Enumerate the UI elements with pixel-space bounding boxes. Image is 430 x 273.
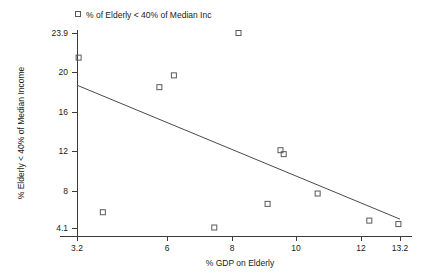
data-point-marker: [265, 201, 270, 206]
data-point-marker: [396, 222, 401, 227]
y-tick-label: 12: [59, 146, 69, 156]
data-point-marker: [315, 191, 320, 196]
scatter-chart: % of Elderly < 40% of Median Inc 23.9 20…: [0, 0, 430, 273]
x-tick-label: 12: [356, 243, 366, 253]
y-tick-label: 4.1: [56, 223, 68, 233]
y-tick-label: 23.9: [51, 28, 68, 38]
data-point-marker: [171, 73, 176, 78]
x-tick-label: 6: [165, 243, 170, 253]
data-point-marker: [212, 225, 217, 230]
trend-line: [77, 85, 400, 219]
y-axis: 23.9 20 16 12 8 4.1 % Elderly < 40% of M…: [16, 28, 77, 236]
legend-label: % of Elderly < 40% of Median Inc: [86, 10, 212, 20]
y-tick-label: 20: [59, 67, 69, 77]
data-point-marker: [100, 210, 105, 215]
data-points: [76, 31, 401, 231]
data-point-marker: [367, 218, 372, 223]
x-axis-title: % GDP on Elderly: [206, 258, 275, 268]
legend: % of Elderly < 40% of Median Inc: [76, 10, 213, 20]
x-axis: 3.2 6 8 10 12 13.2 % GDP on Elderly: [60, 236, 412, 268]
y-tick-label: 8: [63, 186, 68, 196]
regression-line: [77, 85, 400, 219]
x-tick-label: 10: [291, 243, 301, 253]
legend-marker-icon: [76, 12, 81, 17]
y-axis-title: % Elderly < 40% of Median Income: [16, 66, 26, 199]
data-point-marker: [236, 31, 241, 36]
data-point-marker: [157, 85, 162, 90]
x-tick-label: 3.2: [71, 243, 83, 253]
x-tick-label: 8: [230, 243, 235, 253]
chart-canvas: % of Elderly < 40% of Median Inc 23.9 20…: [0, 0, 430, 273]
y-tick-label: 16: [59, 107, 69, 117]
x-tick-label: 13.2: [392, 243, 409, 253]
